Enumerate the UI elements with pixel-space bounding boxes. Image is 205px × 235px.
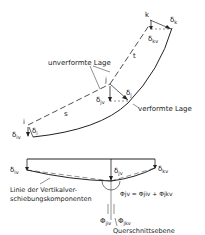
phi-jkv-label: Φjkv — [118, 217, 131, 227]
bottom-delta-kv-label: δkv — [158, 165, 168, 174]
cross-section-label: Querschnittsebene — [113, 227, 175, 235]
line-label-2: schiebungskomponenten — [10, 195, 92, 203]
deformed-curve — [33, 28, 172, 137]
segment-s-label: s — [64, 110, 68, 118]
phi-formula: Φjv = Φjiv + Φjkv — [120, 190, 173, 198]
bottom-delta-iv-label: δiv — [10, 166, 19, 175]
delta-j-label: δj — [126, 89, 132, 99]
undeformed-segment-s — [28, 84, 110, 125]
delta-k-label: δk — [170, 16, 177, 25]
delta-kv-label: δkv — [148, 35, 158, 44]
node-k-label: k — [145, 11, 150, 19]
line-label-1: Linie der Vertikalver- — [10, 186, 78, 194]
phi-jiv-label: Φjiv — [100, 217, 111, 227]
bottom-delta-jv-label: δjv — [114, 167, 123, 177]
delta-jv-label: δjv — [96, 96, 105, 106]
segment-t-label: t — [133, 52, 136, 60]
node-j-label: j — [104, 76, 107, 84]
deflection-diagram: k δk δkv t unverformte Lage j δj δjv ver… — [0, 0, 205, 235]
delta-i-label: δi — [32, 127, 38, 136]
undeformed-segment-t — [110, 24, 150, 84]
vertical-displacement-line — [27, 168, 155, 181]
undeformed-label: unverformte Lage — [48, 59, 111, 67]
deformed-label: verformte Lage — [138, 105, 192, 113]
delta-iv-label: δiv — [12, 131, 21, 140]
node-i-label: i — [23, 118, 25, 126]
